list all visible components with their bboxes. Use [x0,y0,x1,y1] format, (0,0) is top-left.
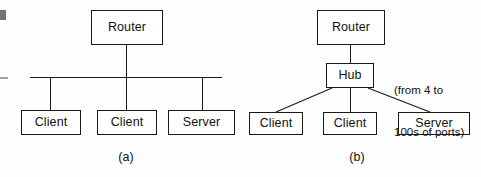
panel-b-client-middle-label: Client [334,117,367,130]
panel-a-router-label: Router [108,21,146,34]
panel-b-router-node: Router [317,10,385,45]
panel-b-hub-client-left-link [276,88,332,112]
scan-artifact-dash [0,77,8,79]
panel-a-caption: (a) [96,150,156,164]
panel-b-router-label: Router [332,21,370,34]
scan-artifact-square [0,10,6,20]
panel-b-port-annotation: (from 4 to 100s of ports) [394,55,464,167]
panel-b-client-left-node: Client [249,112,303,135]
network-topology-figure: Router Client Client Server (a) Router H… [0,0,481,177]
panel-a-client-left-droplink [50,78,51,110]
panel-b-port-annotation-line1: (from 4 to [394,83,464,97]
panel-b-caption: (b) [327,150,387,164]
panel-b-hub-label: Hub [338,69,361,82]
panel-a-router-node: Router [91,10,163,45]
panel-b-port-annotation-line2: 100s of ports) [394,125,464,139]
panel-a-client-middle-label: Client [111,116,144,129]
panel-b-client-left-label: Client [260,117,293,130]
panel-b-client-middle-node: Client [323,112,377,135]
panel-a-server-right-label: Server [183,116,220,129]
panel-b-hub-client-middle-link [350,88,351,112]
panel-a-server-right-node: Server [168,110,235,135]
panel-a-router-droplink [126,45,127,78]
panel-a-client-middle-droplink [126,78,127,110]
panel-a-client-left-node: Client [21,110,81,135]
panel-a-client-left-label: Client [35,116,68,129]
panel-a-client-middle-node: Client [97,110,157,135]
panel-a-server-right-droplink [202,78,203,110]
panel-b-router-hub-link [350,45,351,63]
panel-b-hub-node: Hub [326,63,374,88]
